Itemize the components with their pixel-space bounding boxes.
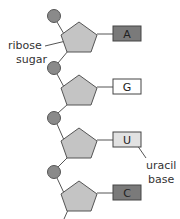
phosphate-4 [48, 166, 61, 179]
base-label-g: G [123, 81, 132, 94]
base-label-u: U [123, 134, 131, 147]
base-label-a: A [123, 28, 131, 41]
ribose-sugar-2 [61, 75, 97, 105]
rna-diagram: A G U C ribose sugar uracil base [0, 0, 180, 219]
uracil-label-line1: uracil [146, 159, 176, 172]
phosphate-1 [48, 10, 61, 23]
ribose-label-line2: sugar [16, 53, 47, 66]
ribose-sugar-3 [61, 128, 97, 158]
ribose-sugar-4 [61, 181, 97, 211]
uracil-label-line2: base [148, 173, 174, 186]
base-label-c: C [123, 187, 131, 200]
phosphate-3 [48, 112, 61, 125]
phosphate-2 [48, 62, 61, 75]
ribose-sugar-1 [61, 22, 97, 52]
ribose-label-line1: ribose [8, 39, 42, 52]
